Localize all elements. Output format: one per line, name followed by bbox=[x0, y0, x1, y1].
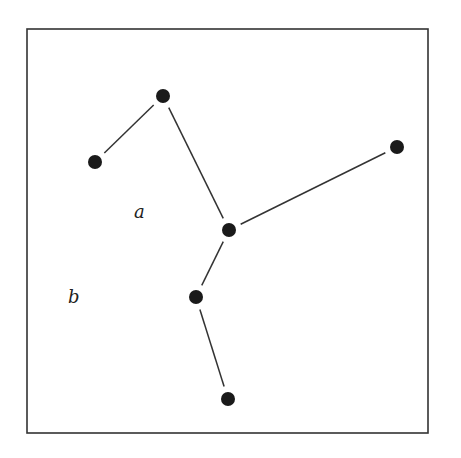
edge-n_center-n_right bbox=[241, 153, 386, 224]
node-n_top bbox=[156, 89, 170, 103]
region-label-b: b bbox=[68, 286, 80, 307]
node-group bbox=[88, 89, 404, 406]
edge-group bbox=[104, 105, 385, 387]
region-label-a: a bbox=[134, 201, 145, 222]
tree-diagram: a b bbox=[0, 0, 461, 458]
diagram-canvas: a b bbox=[0, 0, 461, 458]
node-n_lower bbox=[189, 290, 203, 304]
node-n_right bbox=[390, 140, 404, 154]
node-n_left bbox=[88, 155, 102, 169]
edge-n_left-n_top bbox=[104, 105, 153, 153]
edge-n_center-n_lower bbox=[202, 242, 224, 286]
node-n_bottom bbox=[221, 392, 235, 406]
edge-n_lower-n_bottom bbox=[200, 309, 224, 386]
node-n_center bbox=[222, 223, 236, 237]
edge-n_top-n_center bbox=[169, 108, 224, 219]
